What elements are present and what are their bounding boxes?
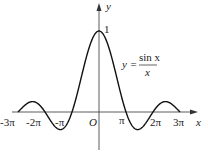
y-axis-label: y <box>105 0 111 12</box>
x-tick-label-neg3pi: -3π <box>0 116 15 128</box>
x-axis-arrow-icon <box>190 110 198 115</box>
y-tick-label-1: 1 <box>104 23 110 35</box>
sinc-chart: y x O 1 -3π -2π -π π 2π 3π y = sin x x <box>0 0 208 163</box>
function-annotation: y = sin x x <box>121 51 161 78</box>
annotation-numerator: sin x <box>139 51 161 63</box>
x-tick-label-neg2pi: -2π <box>26 116 41 128</box>
origin-label: O <box>89 116 97 128</box>
x-axis-label: x <box>195 116 201 128</box>
annotation-denominator: x <box>144 66 150 78</box>
annotation-prefix: y = <box>121 58 137 70</box>
y-axis-arrow-icon <box>97 3 102 11</box>
x-tick-label-pi: π <box>119 114 125 126</box>
x-tick-label-2pi: 2π <box>150 116 162 128</box>
x-tick-label-3pi: 3π <box>173 116 185 128</box>
x-tick-label-negpi: -π <box>55 116 65 128</box>
